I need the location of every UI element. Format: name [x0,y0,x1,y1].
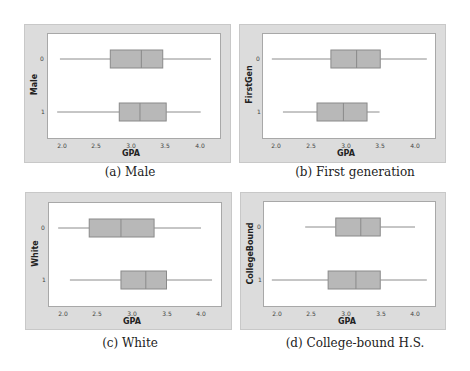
box-0 [305,218,415,236]
xtick: 3.5 [376,310,386,317]
caption: (d) College-bound H.S. [270,336,440,350]
panel-collegebound: 0 1 CollegeBound 2.0 2.5 3.0 3.5 4.0 GPA… [0,0,470,371]
boxplot-svg [0,0,470,371]
xtick: 3.0 [341,310,351,317]
xtick: 2.5 [306,310,316,317]
xtick: 4.0 [410,310,420,317]
xtick: 2.0 [272,310,282,317]
x-axis-label: GPA [327,317,367,326]
ytick-0: 0 [257,223,261,230]
box-1 [272,271,427,289]
ytick-1: 1 [258,276,262,283]
y-axis-label: CollegeBound [246,214,255,294]
